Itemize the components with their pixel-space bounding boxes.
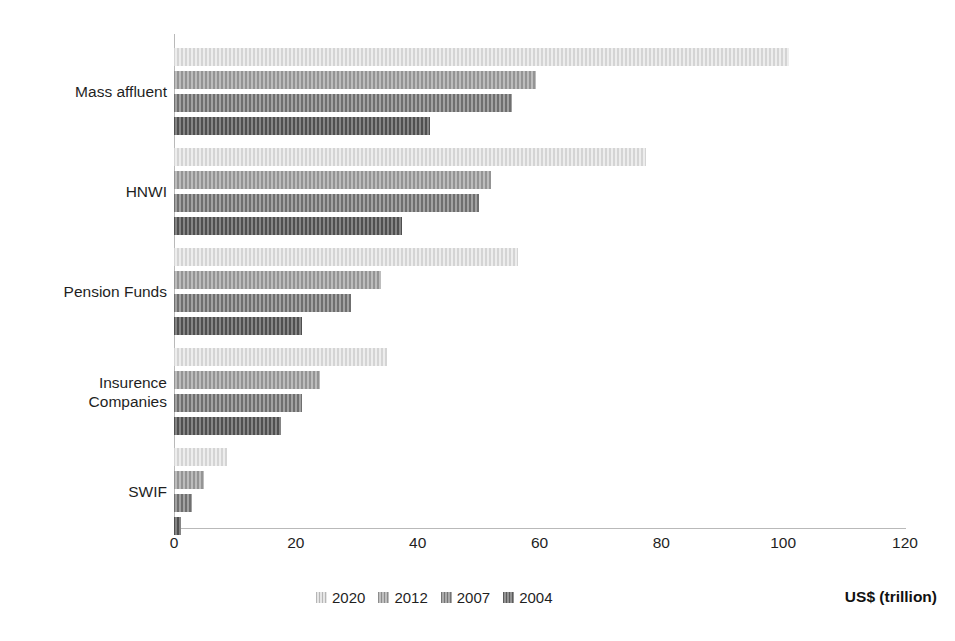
- bar-row: [174, 194, 905, 212]
- category-label: SWIF: [7, 482, 167, 501]
- category-label: Mass affluent: [7, 82, 167, 101]
- bar-group: [174, 248, 905, 340]
- bar[interactable]: [174, 217, 402, 235]
- category-label: Pension Funds: [7, 282, 167, 301]
- bar-group: [174, 48, 905, 140]
- x-tick-label: 100: [770, 534, 796, 552]
- category-label: HNWI: [7, 182, 167, 201]
- bar-group: [174, 448, 905, 540]
- bar-row: [174, 48, 905, 66]
- bar[interactable]: [174, 117, 430, 135]
- legend-item[interactable]: 2020: [316, 589, 365, 606]
- x-tick-label: 80: [653, 534, 670, 552]
- bar-group: [174, 348, 905, 440]
- bar[interactable]: [174, 271, 381, 289]
- category-label: Insurence Companies: [7, 373, 167, 411]
- bar[interactable]: [174, 494, 192, 512]
- legend-swatch-icon: [503, 592, 514, 603]
- bar[interactable]: [174, 471, 204, 489]
- bar-row: [174, 494, 905, 512]
- bar-row: [174, 171, 905, 189]
- legend-label: 2004: [519, 589, 552, 606]
- chart-legend: 2020201220072004: [316, 589, 553, 606]
- bar[interactable]: [174, 348, 387, 366]
- x-tick-label: 60: [531, 534, 548, 552]
- bar-row: [174, 294, 905, 312]
- bar-row: [174, 217, 905, 235]
- x-tick-label: 120: [892, 534, 918, 552]
- bar[interactable]: [174, 371, 320, 389]
- x-axis-tick-labels: 020406080100120: [0, 534, 955, 558]
- bar-row: [174, 117, 905, 135]
- bar-row: [174, 71, 905, 89]
- bar[interactable]: [174, 148, 646, 166]
- legend-label: 2007: [457, 589, 490, 606]
- category-labels: Mass affluentHNWIPension FundsInsurence …: [4, 34, 167, 529]
- bar[interactable]: [174, 394, 302, 412]
- x-tick-label: 0: [170, 534, 179, 552]
- bar[interactable]: [174, 48, 789, 66]
- bar[interactable]: [174, 248, 518, 266]
- bar[interactable]: [174, 94, 512, 112]
- plot-area: [174, 34, 905, 529]
- legend-item[interactable]: 2012: [378, 589, 427, 606]
- legend-item[interactable]: 2007: [441, 589, 490, 606]
- bar[interactable]: [174, 417, 281, 435]
- bar-row: [174, 448, 905, 466]
- legend-swatch-icon: [316, 592, 327, 603]
- legend-swatch-icon: [378, 592, 389, 603]
- bar[interactable]: [174, 448, 227, 466]
- legend-label: 2012: [394, 589, 427, 606]
- bar-row: [174, 371, 905, 389]
- bar-row: [174, 248, 905, 266]
- bar-group: [174, 148, 905, 240]
- bar-row: [174, 148, 905, 166]
- legend-item[interactable]: 2004: [503, 589, 552, 606]
- bar[interactable]: [174, 317, 302, 335]
- x-axis-title: US$ (trillion): [845, 588, 937, 606]
- bar-row: [174, 394, 905, 412]
- bar-row: [174, 317, 905, 335]
- bar-row: [174, 348, 905, 366]
- x-tick-label: 20: [287, 534, 304, 552]
- x-tick-label: 40: [409, 534, 426, 552]
- bar-row: [174, 94, 905, 112]
- legend-label: 2020: [332, 589, 365, 606]
- bar-row: [174, 517, 905, 535]
- bar[interactable]: [174, 517, 181, 535]
- bar-chart: Mass affluentHNWIPension FundsInsurence …: [0, 0, 955, 641]
- bar[interactable]: [174, 71, 536, 89]
- bar-row: [174, 417, 905, 435]
- bar[interactable]: [174, 194, 479, 212]
- bar[interactable]: [174, 294, 351, 312]
- bar-row: [174, 471, 905, 489]
- legend-swatch-icon: [441, 592, 452, 603]
- bar[interactable]: [174, 171, 491, 189]
- bar-row: [174, 271, 905, 289]
